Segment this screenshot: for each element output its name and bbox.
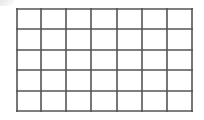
grid (16, 8, 193, 112)
grid-lines (16, 8, 193, 112)
corner-artifact (0, 0, 14, 6)
